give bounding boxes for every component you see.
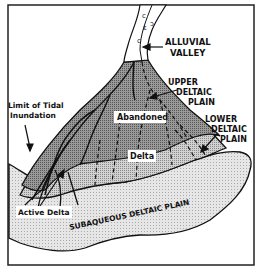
svg-text:ɔ: ɔ [150, 20, 154, 28]
svg-text:ɛ: ɛ [143, 24, 147, 32]
label-upper-deltaic-line2: DELTAIC [176, 88, 212, 97]
delta-diagram: c ɔ ɛ c ALLUV [0, 0, 257, 270]
svg-text:c: c [142, 12, 146, 20]
label-upper-deltaic-line3: PLAIN [188, 98, 215, 107]
label-abandoned: Abandoned [117, 113, 168, 122]
label-lower-deltaic-line1: LOWER [205, 115, 237, 124]
label-lower-deltaic-line2: DELTAIC [211, 125, 247, 134]
label-tidal-line2: Inundation [10, 111, 56, 120]
label-delta: Delta [130, 152, 154, 161]
label-alluvial-valley-line2: VALLEY [170, 48, 206, 58]
label-tidal-line1: Limit of Tidal [8, 101, 64, 110]
label-alluvial-valley-line1: ALLUVIAL [165, 37, 211, 47]
svg-text:c: c [137, 37, 141, 45]
label-lower-deltaic-line3: PLAIN [220, 135, 247, 144]
label-active-delta: Active Delta [18, 208, 70, 217]
label-upper-deltaic-line1: UPPER [168, 78, 198, 87]
